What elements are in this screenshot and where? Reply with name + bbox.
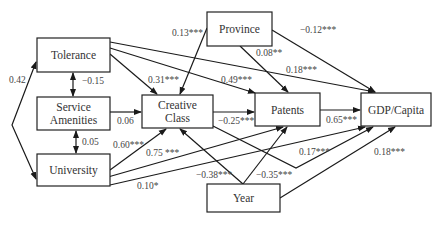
node-patents: Patents xyxy=(255,93,320,126)
node-label: Class xyxy=(165,112,190,124)
coefficient-label-creative-patents: −0.25*** xyxy=(218,116,254,126)
node-label: Creative xyxy=(158,99,197,111)
node-year: Year xyxy=(207,184,280,212)
coefficient-label-tolerance-patents: 0.49*** xyxy=(221,75,252,85)
coefficient-label-creative-gdp: 0.17*** xyxy=(299,147,330,157)
node-creative: CreativeClass xyxy=(142,95,213,128)
coefficient-label-tolerance-gdp: 0.18*** xyxy=(286,65,317,75)
coefficient-label-patents-gdp: 0.65*** xyxy=(326,115,357,125)
coefficient-label-university-patents: 0.75 *** xyxy=(146,148,180,158)
coefficient-label-year-gdp: 0.18*** xyxy=(374,147,405,157)
node-label: Patents xyxy=(271,104,305,116)
coefficient-label-service-creative: 0.06 xyxy=(117,116,134,126)
node-label: Amenities xyxy=(50,114,98,126)
coefficient-label-tolerance-service: −0.15 xyxy=(82,76,104,86)
node-label: Service xyxy=(56,101,90,113)
node-university: University xyxy=(37,154,110,186)
coefficient-label-year-patents: −0.35*** xyxy=(256,170,292,180)
coefficient-label-tolerance-creative: 0.31*** xyxy=(148,75,179,85)
edge-year-to-gdp xyxy=(280,127,395,198)
coefficient-label-province-gdp: −0.12*** xyxy=(300,25,336,35)
coefficient-label-university-creative: 0.60*** xyxy=(113,140,144,150)
node-label: GDP/Capita xyxy=(368,104,424,117)
node-service: ServiceAmenities xyxy=(37,97,110,130)
coefficient-label-tolerance-university: 0.42 xyxy=(9,75,26,85)
edge-tolerance-to-patents xyxy=(110,48,255,93)
node-tolerance: Tolerance xyxy=(37,38,110,72)
node-label: Province xyxy=(219,23,260,35)
coefficient-label-province-patents: 0.08** xyxy=(256,48,282,58)
path-diagram: ToleranceServiceAmenitiesUniversityCreat… xyxy=(0,0,443,226)
node-label: Tolerance xyxy=(51,49,96,61)
node-province: Province xyxy=(207,12,272,46)
edge-creative-to-gdp xyxy=(213,126,373,168)
coefficient-label-university-gdp: 0.10* xyxy=(137,181,159,191)
coefficient-label-province-creative: 0.13*** xyxy=(172,28,203,38)
coefficient-label-year-creative: −0.38*** xyxy=(196,170,232,180)
node-label: Year xyxy=(233,192,254,204)
node-gdp: GDP/Capita xyxy=(361,93,431,126)
coefficient-label-service-university: 0.05 xyxy=(82,137,99,147)
node-label: University xyxy=(49,164,98,177)
